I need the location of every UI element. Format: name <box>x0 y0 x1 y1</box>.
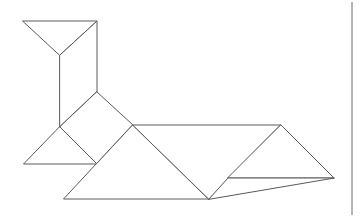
tangram-screenshot <box>0 0 363 217</box>
tangram-figure <box>0 0 363 217</box>
tail-lower-triangle <box>209 178 334 199</box>
